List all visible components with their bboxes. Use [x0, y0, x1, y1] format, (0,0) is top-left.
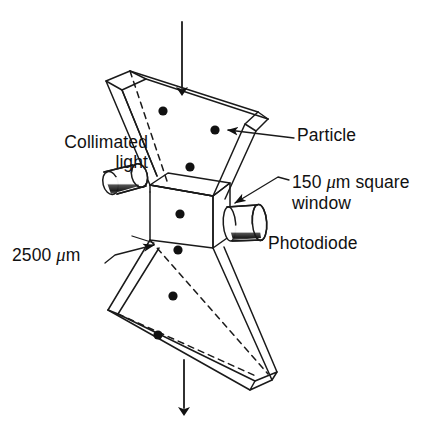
leader-particle	[228, 130, 294, 138]
label-collimated-light-line1: Collimated	[64, 132, 148, 152]
particle-dot	[175, 209, 184, 218]
photodiode-detector	[222, 204, 268, 241]
particle-dot	[173, 245, 182, 254]
label-window-mu: μ	[326, 172, 335, 192]
particle-dot	[210, 125, 219, 134]
particle-dots	[153, 106, 219, 339]
leader-window	[235, 177, 289, 203]
label-window-size: 150 μm square window	[292, 172, 410, 213]
particle-dot	[168, 291, 177, 300]
label-window-rest: m square	[336, 172, 410, 192]
label-diameter-value: 2500	[12, 245, 51, 265]
label-collimated-light-line2: light	[115, 152, 148, 172]
label-photodiode: Photodiode	[268, 234, 358, 254]
lower-funnel	[108, 240, 277, 390]
label-window-line2: window	[292, 193, 351, 213]
label-diameter: 2500 μm	[12, 245, 80, 266]
label-collimated-light: Collimated light	[8, 133, 148, 172]
label-diameter-unit: m	[66, 245, 81, 265]
particle-dot	[153, 330, 162, 339]
label-diameter-mu: μ	[56, 245, 65, 265]
flow-cell-diagram	[0, 0, 434, 429]
particle-dot	[185, 162, 194, 171]
label-particle: Particle	[297, 126, 356, 146]
figure-root: Collimated light Particle 150 μm square …	[0, 0, 434, 429]
leader-diameter	[105, 245, 154, 263]
label-window-value: 150	[292, 172, 322, 192]
particle-dot	[158, 106, 167, 115]
